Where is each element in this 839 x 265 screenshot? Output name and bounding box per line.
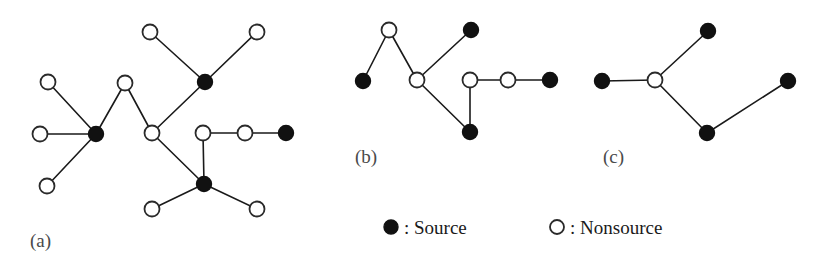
- source-node: [356, 74, 371, 89]
- graph-edge: [707, 81, 788, 133]
- graph-edge: [389, 30, 417, 80]
- source-node: [89, 127, 104, 142]
- nonsource-node: [145, 202, 160, 217]
- edges-layer: [40, 30, 788, 209]
- source-node: [700, 126, 715, 141]
- panel-label-a: (a): [30, 230, 51, 252]
- nonsource-node: [145, 126, 160, 141]
- graph-edge: [152, 184, 204, 209]
- source-node: [543, 73, 558, 88]
- nonsource-node: [250, 202, 265, 217]
- graph-edge: [152, 82, 205, 133]
- source-node: [781, 74, 796, 89]
- graph-edge: [205, 32, 257, 82]
- source-node: [701, 24, 716, 39]
- graph-edge: [655, 80, 707, 133]
- graph-edge: [47, 134, 96, 186]
- graph-edge: [125, 83, 152, 133]
- graph-edge: [150, 32, 205, 82]
- nonsource-node: [463, 73, 478, 88]
- legend-label-source: : Source: [404, 217, 467, 238]
- graph-figure: (a)(b)(c) : Source: Nonsource: [0, 0, 839, 265]
- nonsource-node: [250, 25, 265, 40]
- graph-edge: [48, 82, 96, 134]
- graph-edge: [204, 184, 257, 209]
- graph-edge: [363, 30, 389, 81]
- source-node: [464, 23, 479, 38]
- panel-label-b: (b): [355, 146, 377, 168]
- graph-edge: [417, 30, 471, 80]
- graph-edge: [417, 80, 470, 132]
- graph-edge: [152, 133, 204, 184]
- nonsource-node: [648, 73, 663, 88]
- nonsource-node: [382, 23, 397, 38]
- source-node: [197, 177, 212, 192]
- graph-edge: [96, 83, 125, 134]
- nonsource-node: [118, 76, 133, 91]
- nonsource-node: [410, 73, 425, 88]
- nonsource-node: [196, 126, 211, 141]
- nonsource-node: [143, 25, 158, 40]
- nonsource-node: [33, 127, 48, 142]
- panel-labels-layer: (a)(b)(c): [30, 146, 624, 252]
- legend: : Source: Nonsource: [384, 217, 662, 238]
- source-node: [279, 126, 294, 141]
- filled-circle-icon: [384, 220, 398, 234]
- nonsource-node: [40, 179, 55, 194]
- nonsource-node: [238, 126, 253, 141]
- graph-edge: [655, 31, 708, 80]
- source-node: [198, 75, 213, 90]
- nonsource-node: [501, 73, 516, 88]
- nodes-layer: [33, 23, 796, 217]
- source-node: [463, 125, 478, 140]
- open-circle-icon: [550, 220, 564, 234]
- source-node: [595, 74, 610, 89]
- figure-container: (a)(b)(c) : Source: Nonsource: [0, 0, 839, 265]
- nonsource-node: [41, 75, 56, 90]
- panel-label-c: (c): [603, 146, 624, 168]
- legend-label-nonsource: : Nonsource: [570, 217, 662, 238]
